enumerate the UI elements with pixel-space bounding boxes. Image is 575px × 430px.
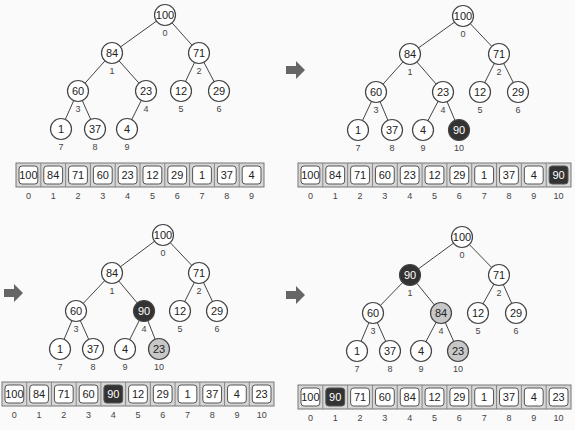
node-index: 1: [109, 66, 114, 76]
node-index: 5: [178, 104, 183, 114]
svg-text:23: 23: [552, 391, 564, 403]
svg-text:12: 12: [428, 391, 440, 403]
tree-node: 125: [470, 82, 491, 116]
svg-text:37: 37: [206, 388, 218, 400]
node-index: 0: [160, 248, 165, 258]
svg-text:60: 60: [379, 169, 391, 181]
node-index: 6: [214, 324, 219, 334]
node-index: 2: [196, 286, 201, 296]
node-index: 1: [407, 288, 412, 298]
tree-node: 1000: [453, 6, 474, 40]
node-index: 4: [438, 326, 443, 336]
svg-text:12: 12: [174, 305, 186, 317]
svg-text:84: 84: [106, 47, 118, 59]
svg-text:100: 100: [301, 169, 319, 181]
svg-text:4: 4: [531, 391, 537, 403]
array-index: 3: [100, 191, 105, 201]
svg-text:1: 1: [199, 169, 205, 181]
node-index: 8: [389, 143, 394, 153]
tree-node: 49: [115, 339, 136, 373]
svg-text:90: 90: [552, 169, 564, 181]
node-index: 2: [496, 288, 501, 298]
svg-text:1: 1: [481, 391, 487, 403]
array-index: 3: [382, 413, 387, 423]
svg-text:60: 60: [70, 305, 82, 317]
node-index: 7: [354, 364, 359, 374]
svg-text:37: 37: [503, 169, 515, 181]
tree-node: 296: [508, 82, 529, 116]
svg-text:60: 60: [370, 86, 382, 98]
node-index: 8: [92, 142, 97, 152]
node-index: 6: [515, 105, 520, 115]
node-index: 3: [75, 104, 80, 114]
tree-node: 712: [489, 265, 510, 299]
tree-node: 841: [102, 43, 123, 77]
array-index: 4: [407, 413, 412, 423]
array-index: 2: [61, 410, 66, 420]
node-index: 9: [124, 142, 129, 152]
array-index: 4: [407, 191, 412, 201]
svg-text:12: 12: [132, 388, 144, 400]
array-index: 5: [135, 410, 140, 420]
svg-text:37: 37: [503, 391, 515, 403]
svg-text:100: 100: [454, 10, 472, 22]
node-index: 8: [387, 364, 392, 374]
svg-text:29: 29: [453, 391, 465, 403]
array-index: 7: [199, 191, 204, 201]
svg-text:84: 84: [404, 48, 416, 60]
svg-text:29: 29: [512, 86, 524, 98]
svg-text:29: 29: [453, 169, 465, 181]
node-index: 2: [496, 67, 501, 77]
svg-text:1: 1: [354, 345, 360, 357]
array-index: 8: [210, 410, 215, 420]
arrow-right-icon: [4, 284, 23, 302]
node-index: 3: [73, 324, 78, 334]
svg-text:84: 84: [329, 169, 341, 181]
tree-node: 17: [50, 339, 71, 373]
node-index: 5: [475, 326, 480, 336]
svg-text:23: 23: [452, 345, 464, 357]
svg-text:100: 100: [19, 169, 37, 181]
node-index: 9: [418, 364, 423, 374]
array-index: 1: [333, 191, 338, 201]
tree-node: 296: [207, 301, 228, 335]
svg-text:4: 4: [124, 123, 130, 135]
svg-text:37: 37: [89, 123, 101, 135]
tree-node: 9010: [449, 120, 470, 154]
array-index: 6: [160, 410, 165, 420]
panel-2: 1000841712603234125296173784990101000841…: [280, 0, 575, 215]
svg-text:84: 84: [33, 388, 45, 400]
svg-text:29: 29: [171, 169, 183, 181]
array-index: 7: [482, 413, 487, 423]
svg-text:23: 23: [404, 169, 416, 181]
tree-node: 841: [102, 263, 123, 297]
array-index: 0: [308, 413, 313, 423]
node-index: 7: [57, 362, 62, 372]
array-index: 6: [175, 191, 180, 201]
node-index: 0: [460, 29, 465, 39]
svg-text:71: 71: [193, 47, 205, 59]
svg-text:71: 71: [193, 267, 205, 279]
array-index: 2: [358, 413, 363, 423]
tree-node: 378: [380, 341, 401, 375]
panel-4: 1000901712603844125296173784923101000901…: [280, 215, 575, 430]
svg-text:29: 29: [157, 388, 169, 400]
tree-node: 296: [209, 81, 230, 115]
svg-text:29: 29: [213, 85, 225, 97]
tree-node: 234: [136, 81, 157, 115]
tree-node: 378: [85, 119, 106, 153]
node-index: 2: [196, 66, 201, 76]
array-index: 10: [554, 413, 564, 423]
array-index: 10: [257, 410, 267, 420]
svg-text:60: 60: [97, 169, 109, 181]
svg-text:4: 4: [531, 169, 537, 181]
svg-text:71: 71: [58, 388, 70, 400]
svg-text:4: 4: [420, 124, 426, 136]
node-index: 6: [216, 104, 221, 114]
tree-node: 2310: [448, 341, 469, 375]
array-index: 9: [249, 191, 254, 201]
svg-text:90: 90: [453, 124, 465, 136]
array-index: 2: [75, 191, 80, 201]
tree-node: 603: [68, 81, 89, 115]
array-index: 7: [482, 191, 487, 201]
